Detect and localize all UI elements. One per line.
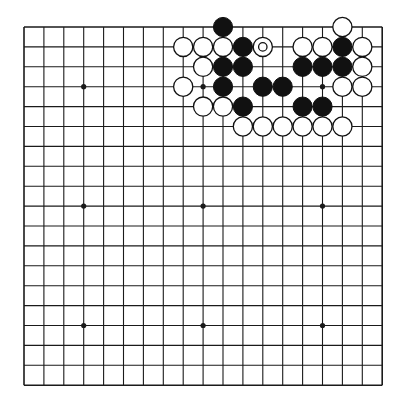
black-stone[interactable] <box>253 77 272 96</box>
white-stone[interactable] <box>353 57 372 76</box>
white-stone[interactable] <box>174 77 193 96</box>
white-stone[interactable] <box>333 17 352 36</box>
star-point <box>81 204 86 209</box>
star-point <box>320 204 325 209</box>
white-stone[interactable] <box>194 37 213 56</box>
black-stone[interactable] <box>333 37 352 56</box>
star-point <box>201 84 206 89</box>
star-point <box>320 323 325 328</box>
white-stone[interactable] <box>353 77 372 96</box>
black-stone[interactable] <box>233 37 252 56</box>
white-stone[interactable] <box>273 117 292 136</box>
star-point <box>320 84 325 89</box>
black-stone[interactable] <box>233 97 252 116</box>
go-board <box>0 0 405 404</box>
star-point <box>201 323 206 328</box>
white-stone[interactable] <box>333 77 352 96</box>
white-stone[interactable] <box>194 97 213 116</box>
white-stone[interactable] <box>293 37 312 56</box>
white-stone[interactable] <box>253 117 272 136</box>
white-stone[interactable] <box>174 37 193 56</box>
star-point <box>81 323 86 328</box>
black-stone[interactable] <box>213 77 232 96</box>
star-point <box>201 204 206 209</box>
star-point <box>81 84 86 89</box>
black-stone[interactable] <box>233 57 252 76</box>
white-stone[interactable] <box>313 117 332 136</box>
white-stone[interactable] <box>194 57 213 76</box>
black-stone[interactable] <box>293 97 312 116</box>
white-stone[interactable] <box>313 37 332 56</box>
black-stone[interactable] <box>333 57 352 76</box>
black-stone[interactable] <box>213 17 232 36</box>
black-stone[interactable] <box>313 97 332 116</box>
white-stone[interactable] <box>333 117 352 136</box>
black-stone[interactable] <box>293 57 312 76</box>
white-stone[interactable] <box>253 37 272 56</box>
white-stone[interactable] <box>213 97 232 116</box>
black-stone[interactable] <box>273 77 292 96</box>
white-stone[interactable] <box>293 117 312 136</box>
white-stone[interactable] <box>233 117 252 136</box>
black-stone[interactable] <box>213 57 232 76</box>
white-stone[interactable] <box>353 37 372 56</box>
black-stone[interactable] <box>313 57 332 76</box>
white-stone[interactable] <box>213 37 232 56</box>
